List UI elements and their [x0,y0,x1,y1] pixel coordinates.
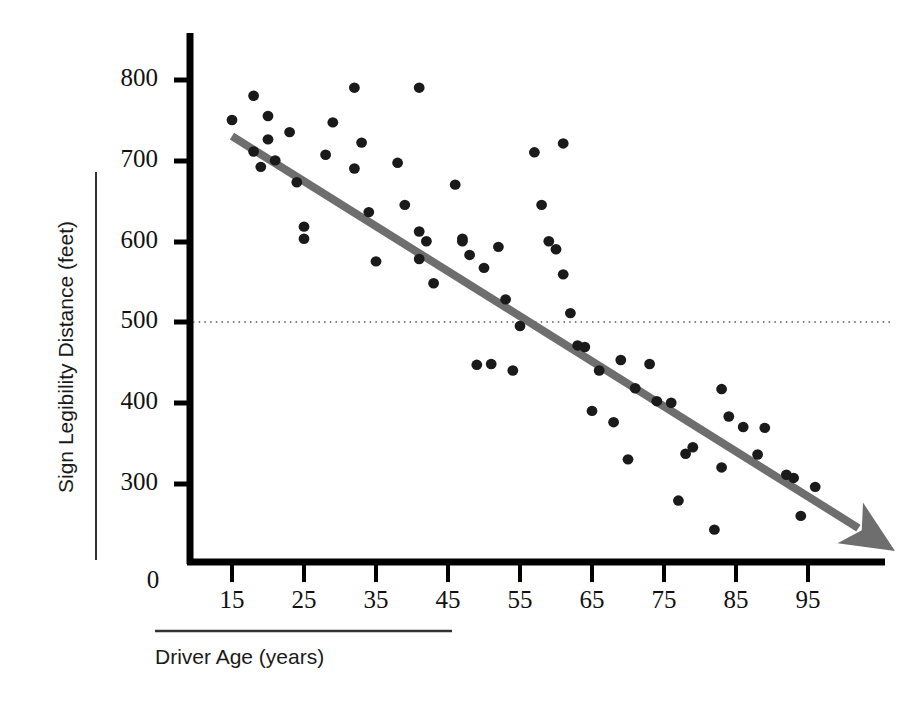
data-point [644,359,655,369]
data-point [371,256,382,266]
data-point [500,294,511,304]
data-point [428,278,439,288]
data-point [716,384,727,394]
data-point [551,244,562,254]
data-point [450,179,461,189]
data-point [493,242,504,252]
y-tick-label-500: 500 [88,306,158,334]
data-point [752,449,763,459]
y-tick-label-400: 400 [88,387,158,415]
data-point [687,442,698,452]
data-point [651,396,662,406]
data-point [579,342,590,352]
data-point [529,147,540,157]
x-tick-marks [232,564,808,582]
data-point [479,263,490,273]
x-axis-title: Driver Age (years) [155,645,324,669]
data-point [464,250,475,260]
x-tick-label-65: 65 [562,586,622,614]
data-point [255,162,266,172]
data-point [788,473,799,483]
y-axis-title: Sign Legibility Distance (feet) [54,187,78,527]
data-point [363,207,374,217]
data-point [421,236,432,246]
scatter-chart-figure: 800 700 600 500 400 300 15 25 35 45 55 6… [0,0,905,705]
data-point [795,511,806,521]
data-point [327,117,338,127]
data-point [320,150,331,160]
data-point [414,226,425,236]
x-tick-label-75: 75 [634,586,694,614]
data-point [227,115,238,125]
data-point [543,236,554,246]
data-point [615,355,626,365]
data-point [299,234,310,244]
y-tick-label-700: 700 [88,145,158,173]
scatter-points-layer [227,82,821,534]
data-point [349,163,360,173]
data-point [457,236,468,246]
x-tick-label-95: 95 [778,586,838,614]
data-point [471,360,482,370]
data-point [594,365,605,375]
data-point [515,321,526,331]
data-point [291,177,302,187]
data-point [623,454,634,464]
data-point [486,359,497,369]
data-point [248,91,259,101]
data-point [558,138,569,148]
data-point [587,406,598,416]
x-tick-label-55: 55 [490,586,550,614]
axis-lines [187,33,885,564]
data-point [270,155,281,165]
data-point [630,383,641,393]
x-tick-label-45: 45 [418,586,478,614]
data-point [723,411,734,421]
x-tick-label-15: 15 [202,586,262,614]
y-tick-label-600: 600 [88,226,158,254]
data-point [248,146,259,156]
data-point [414,254,425,264]
x-tick-label-35: 35 [346,586,406,614]
data-point [709,524,720,534]
x-tick-label-85: 85 [706,586,766,614]
y-tick-label-300: 300 [88,468,158,496]
data-point [284,127,295,137]
data-point [392,158,403,168]
data-point [558,269,569,279]
data-point [263,134,274,144]
data-point [810,482,821,492]
data-point [738,422,749,432]
data-point [666,398,677,408]
data-point [507,365,518,375]
data-point [565,308,576,318]
data-point [673,495,684,505]
data-point [536,200,547,210]
data-point [414,82,425,92]
trend-line [232,136,858,528]
data-point [608,417,619,427]
origin-zero-label: 0 [138,566,168,594]
data-point [263,111,274,121]
data-point [716,462,727,472]
data-point [759,423,770,433]
data-point [399,200,410,210]
data-point [356,137,367,147]
data-point [299,221,310,231]
data-point [349,82,360,92]
x-tick-label-25: 25 [274,586,334,614]
y-tick-label-800: 800 [88,64,158,92]
